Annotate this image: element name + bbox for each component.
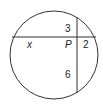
label-left-segment: x xyxy=(26,39,33,50)
label-point-p: P xyxy=(65,39,72,50)
circle xyxy=(10,11,98,99)
label-bottom-segment: 6 xyxy=(65,69,71,80)
label-right-segment: 2 xyxy=(83,39,89,50)
label-top-segment: 3 xyxy=(65,23,71,34)
chords-diagram: 3 2 x P 6 xyxy=(0,0,103,106)
